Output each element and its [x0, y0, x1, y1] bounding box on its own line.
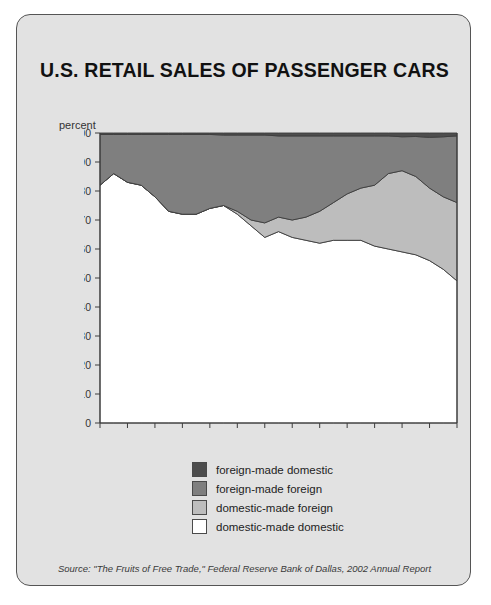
- y-tick-label: 80: [84, 185, 91, 197]
- legend-item-label: foreign-made domestic: [216, 464, 333, 476]
- legend-swatch-icon: [192, 500, 207, 515]
- y-tick-label: 20: [84, 359, 91, 371]
- legend-item: foreign-made domestic: [192, 460, 452, 479]
- legend-item-label: domestic-made foreign: [216, 502, 333, 514]
- source-note: Source: "The Fruits of Free Trade," Fede…: [17, 563, 472, 574]
- area-bands-group: [100, 133, 457, 423]
- chart-legend: foreign-made domesticforeign-made foreig…: [192, 460, 452, 536]
- y-tick-label: 60: [84, 243, 91, 255]
- legend-swatch-icon: [192, 462, 207, 477]
- legend-item-label: domestic-made domestic: [216, 521, 344, 533]
- y-tick-label: 70: [84, 214, 91, 226]
- page-title: U.S. RETAIL SALES OF PASSENGER CARS: [17, 59, 472, 82]
- y-tick-label: 40: [84, 301, 91, 313]
- legend-swatch-icon: [192, 481, 207, 496]
- y-tick-label: 10: [84, 388, 91, 400]
- y-tick-label: 90: [84, 156, 91, 168]
- chart-panel: U.S. RETAIL SALES OF PASSENGER CARS perc…: [16, 14, 471, 586]
- y-tick-label: 50: [84, 272, 91, 284]
- y-tick-label: 30: [84, 330, 91, 342]
- legend-item: foreign-made foreign: [192, 479, 452, 498]
- chart-plot-area: 0102030405060708090100 '75'77'79'81'83'8…: [84, 117, 458, 429]
- legend-item: domestic-made foreign: [192, 498, 452, 517]
- stacked-area-chart: 0102030405060708090100 '75'77'79'81'83'8…: [84, 117, 458, 429]
- y-tick-label: 100: [84, 127, 91, 139]
- x-tick-labels-group: '75'77'79'81'83'85'87'89'91'93'95'97'99'…: [93, 423, 458, 429]
- y-tick-label: 0: [85, 417, 91, 429]
- legend-swatch-icon: [192, 519, 207, 534]
- y-tick-labels-group: 0102030405060708090100: [84, 127, 100, 429]
- legend-item-label: foreign-made foreign: [216, 483, 322, 495]
- divider: [57, 551, 432, 552]
- legend-item: domestic-made domestic: [192, 517, 452, 536]
